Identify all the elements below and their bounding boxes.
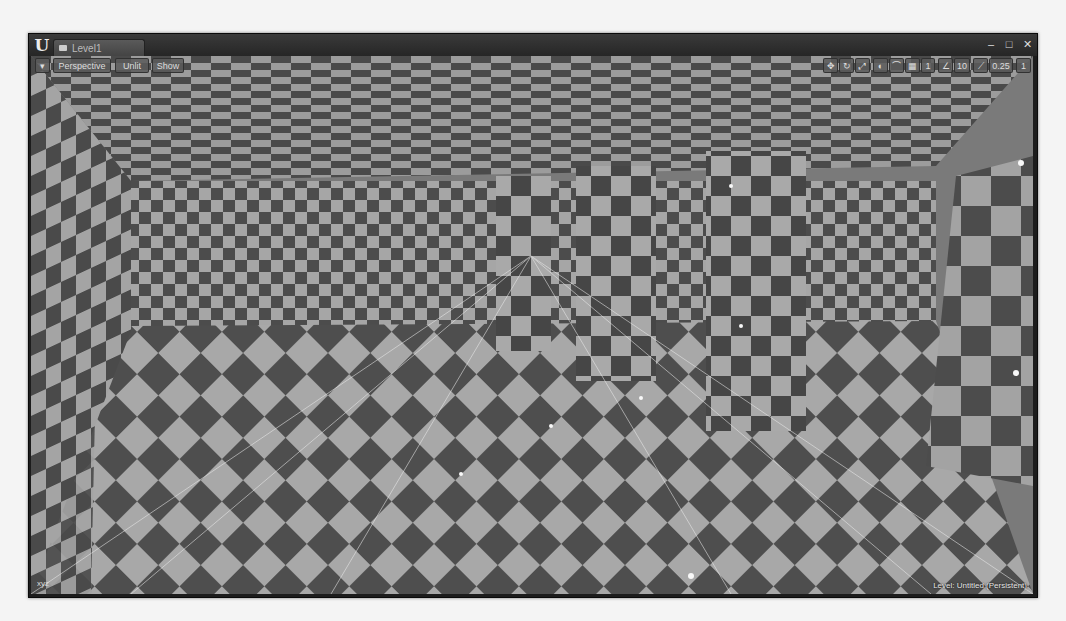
world-local-icon[interactable]: ◐ xyxy=(873,58,888,73)
editor-window: U Level1 – □ ✕ xyxy=(28,33,1038,598)
rotate-snap-icon[interactable]: ∠ xyxy=(938,58,953,73)
level-tab[interactable]: Level1 xyxy=(53,39,145,56)
scale-snap-icon[interactable]: ⟋ xyxy=(973,58,988,73)
viewport-toolbar: ▾ Perspective Unlit Show ✥ ↻ ⤢ ◐ ⌒ ▦ 1 ∠… xyxy=(31,56,1033,74)
rotate-icon[interactable]: ↻ xyxy=(839,58,854,73)
rotate-snap-value[interactable]: 10 xyxy=(954,58,970,73)
unreal-logo-icon[interactable]: U xyxy=(33,35,51,55)
minimize-button[interactable]: – xyxy=(983,37,999,51)
axis-indicator: xyz xyxy=(37,579,49,588)
scene-render[interactable] xyxy=(31,56,1033,594)
level-icon xyxy=(59,45,67,51)
show-button[interactable]: Show xyxy=(152,58,184,73)
close-button[interactable]: ✕ xyxy=(1019,37,1035,51)
viewport-menu-button[interactable]: ▾ xyxy=(35,58,50,73)
grid-snap-value[interactable]: 1 xyxy=(921,58,935,73)
perspective-button[interactable]: Perspective xyxy=(53,58,111,73)
level-viewport[interactable]: ▾ Perspective Unlit Show ✥ ↻ ⤢ ◐ ⌒ ▦ 1 ∠… xyxy=(31,56,1033,594)
scale-snap-value[interactable]: 0.25 xyxy=(989,58,1013,73)
lighting-mode-button[interactable]: Unlit xyxy=(115,58,149,73)
maximize-button[interactable]: □ xyxy=(1001,37,1017,51)
title-bar[interactable]: U Level1 – □ ✕ xyxy=(29,34,1037,56)
scale-icon[interactable]: ⤢ xyxy=(855,58,870,73)
camera-speed-button[interactable]: 1 xyxy=(1016,58,1031,73)
level-tab-label: Level1 xyxy=(72,43,101,54)
level-name-label: Level: Untitled (Persistent) xyxy=(933,581,1027,590)
grid-snap-icon[interactable]: ▦ xyxy=(905,58,920,73)
surface-snap-icon[interactable]: ⌒ xyxy=(889,58,904,73)
translate-icon[interactable]: ✥ xyxy=(823,58,838,73)
